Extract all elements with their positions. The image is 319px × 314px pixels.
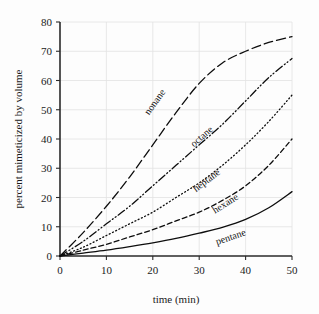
y-tick-label: 50 bbox=[41, 104, 53, 116]
x-tick-labels: 01020304050 bbox=[57, 264, 298, 276]
x-tick-label: 10 bbox=[101, 264, 113, 276]
x-tick-label: 40 bbox=[240, 264, 252, 276]
x-tick-label: 0 bbox=[57, 264, 63, 276]
y-tick-label: 40 bbox=[41, 133, 53, 145]
curve-labels: nonaneoctaneheptanehexanepentane bbox=[142, 86, 248, 246]
chart-figure: 01020304050 01020304050607080 nonaneocta… bbox=[0, 0, 319, 314]
y-axis-title: percent mimeticized by volume bbox=[12, 69, 24, 208]
x-tick-label: 20 bbox=[147, 264, 159, 276]
y-tick-label: 0 bbox=[47, 250, 53, 262]
series-curves bbox=[60, 37, 292, 256]
curve-label-octane: octane bbox=[188, 123, 215, 149]
curve-label-hexane: hexane bbox=[210, 191, 240, 216]
curve-label-heptane: heptane bbox=[191, 166, 223, 194]
y-tick-label: 30 bbox=[41, 162, 53, 174]
line-chart: 01020304050 01020304050607080 nonaneocta… bbox=[0, 0, 319, 314]
series-line-nonane bbox=[60, 37, 292, 256]
x-tick-label: 30 bbox=[194, 264, 206, 276]
x-axis-title: time (min) bbox=[153, 293, 200, 306]
series-line-heptane bbox=[60, 95, 292, 256]
curve-label-pentane: pentane bbox=[214, 226, 248, 247]
y-tick-label: 80 bbox=[41, 16, 53, 28]
y-tick-label: 20 bbox=[41, 192, 53, 204]
y-tick-label: 70 bbox=[41, 45, 53, 57]
y-tick-labels: 01020304050607080 bbox=[41, 16, 53, 262]
y-tick-label: 60 bbox=[41, 75, 53, 87]
curve-label-nonane: nonane bbox=[142, 86, 168, 116]
x-tick-label: 50 bbox=[287, 264, 299, 276]
y-tick-label: 10 bbox=[41, 221, 53, 233]
series-line-pentane bbox=[60, 192, 292, 256]
